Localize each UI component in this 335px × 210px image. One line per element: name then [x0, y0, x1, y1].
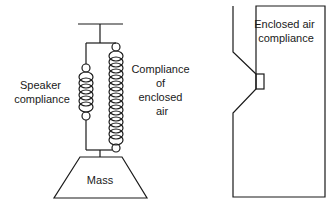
- enclosure-upper-baffle: [233, 6, 256, 74]
- diagram-canvas: Speaker compliance Compliance of enclose…: [0, 0, 335, 210]
- enclosed-air-label: Enclosed air compliance: [254, 18, 318, 44]
- enclosed-air-spring-icon: [109, 43, 123, 152]
- speaker-compliance-spring-icon: [79, 43, 93, 150]
- enclosed-air-compliance-label: Compliance of enclosed air: [131, 63, 192, 117]
- speaker-driver-icon: [256, 74, 264, 89]
- speaker-compliance-label: Speaker compliance: [14, 79, 70, 105]
- spring-mass-model: [54, 24, 147, 198]
- mass-label: Mass: [87, 174, 114, 186]
